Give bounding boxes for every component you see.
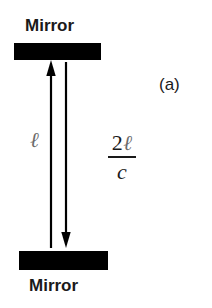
downward-light-ray [61, 62, 70, 248]
length-symbol-label: ℓ [30, 130, 39, 151]
numerator-coefficient: 2 [112, 130, 124, 155]
fraction-denominator: c [117, 160, 127, 183]
upward-light-ray [46, 60, 55, 248]
round-trip-time-expression: 2ℓ c [108, 131, 136, 183]
bottom-mirror-bar [19, 251, 108, 270]
numerator-length-symbol: ℓ [123, 131, 132, 155]
fraction-bar [108, 156, 136, 158]
panel-label: (a) [159, 76, 180, 93]
bottom-mirror-label: Mirror [29, 277, 78, 294]
light-clock-diagram: Mirror ℓ (a) 2ℓ c Mirror [0, 0, 212, 308]
fraction-numerator: 2ℓ [111, 131, 134, 155]
